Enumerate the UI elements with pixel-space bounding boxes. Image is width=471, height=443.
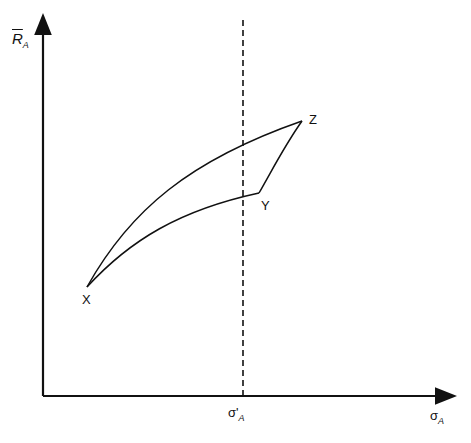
point-x-label: X: [82, 292, 91, 307]
dashed-line-label: σ'A: [228, 405, 245, 423]
curve-y-to-z: [259, 121, 302, 193]
x-axis-label: σA: [430, 408, 444, 426]
diagram-canvas: [0, 0, 471, 443]
lower-curve-x-to-y: [87, 193, 259, 287]
point-z-label: Z: [309, 112, 317, 127]
y-axis-label: RA: [12, 30, 29, 50]
point-y-label: Y: [261, 198, 270, 213]
